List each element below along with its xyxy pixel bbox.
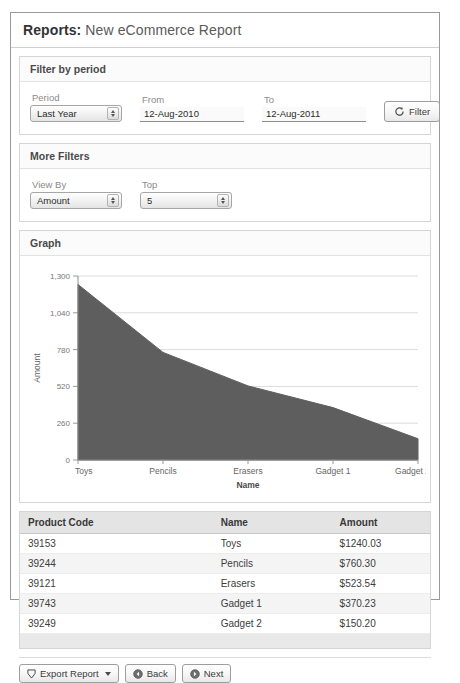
report-table-panel: Product Code Name Amount 39153Toys$1240.… [19,511,431,649]
report-table: Product Code Name Amount 39153Toys$1240.… [20,512,430,634]
x-tick-label: Pencils [149,466,176,476]
chevron-updown-icon [107,107,119,120]
y-tick-label: 780 [57,346,71,355]
chevron-updown-icon [217,194,229,207]
y-tick-label: 1,040 [50,309,71,318]
view-by-field: View By Amount [30,179,122,209]
to-label: To [262,94,366,105]
table-row[interactable]: 39153Toys$1240.03 [20,534,430,554]
more-filters-row: View By Amount Top 5 [30,179,420,209]
cell-product-code: 39121 [20,574,213,594]
cell-product-name: Toys [213,534,332,554]
filter-button[interactable]: Filter [384,101,440,122]
back-arrow-icon [133,669,143,679]
table-row[interactable]: 39244Pencils$760.30 [20,554,430,574]
top-select-value: 5 [141,195,152,206]
filter-button-label: Filter [409,106,430,117]
cell-product-name: Gadget 2 [213,614,332,634]
table-row[interactable]: 39121Erasers$523.54 [20,574,430,594]
back-button[interactable]: Back [125,664,176,683]
column-header-name[interactable]: Name [213,512,332,534]
refresh-icon [394,106,405,117]
area-chart: 02605207801,0401,300ToysPencilsErasersGa… [26,262,424,498]
table-body: 39153Toys$1240.0339244Pencils$760.303912… [20,534,430,634]
export-icon [27,669,36,679]
page-title: Reports: New eCommerce Report [11,13,439,48]
cell-product-amount: $523.54 [332,574,430,594]
filter-form-row: Period Last Year From To [30,92,420,122]
next-button[interactable]: Next [182,664,232,683]
cell-product-name: Pencils [213,554,332,574]
area-series [78,284,418,460]
from-label: From [140,94,244,105]
back-button-label: Back [147,668,168,679]
cell-product-code: 39153 [20,534,213,554]
y-tick-label: 260 [57,419,71,428]
cell-product-name: Gadget 1 [213,594,332,614]
cell-product-amount: $370.23 [332,594,430,614]
area-chart-svg: 02605207801,0401,300ToysPencilsErasersGa… [26,262,426,498]
table-filler-row [20,634,430,648]
cell-product-amount: $1240.03 [332,534,430,554]
table-header-row: Product Code Name Amount [20,512,430,534]
export-report-button[interactable]: Export Report [19,664,119,683]
x-tick-label: Gadget 2 [395,466,426,476]
filter-panel-header: Filter by period [20,57,430,82]
x-tick-label: Toys [75,466,92,476]
y-tick-label: 1,300 [50,272,71,281]
cell-product-code: 39249 [20,614,213,634]
more-filters-header: More Filters [20,144,430,169]
chevron-down-icon [105,672,111,676]
cell-product-amount: $150.20 [332,614,430,634]
period-field: Period Last Year [30,92,122,122]
next-arrow-icon [190,669,200,679]
cell-product-amount: $760.30 [332,554,430,574]
to-date-input[interactable] [262,107,366,122]
x-tick-label: Erasers [233,466,262,476]
column-header-amount[interactable]: Amount [332,512,430,534]
filter-by-period-panel: Filter by period Period Last Year From [19,56,431,135]
from-field: From [140,94,244,122]
period-label: Period [30,92,122,103]
chevron-updown-icon [107,194,119,207]
next-button-label: Next [204,668,224,679]
view-by-label: View By [30,179,122,190]
y-axis-label: Amount [32,353,42,383]
cell-product-code: 39743 [20,594,213,614]
top-field: Top 5 [140,179,232,209]
footer-toolbar: Export Report Back Next [19,657,431,683]
report-page-frame: Reports: New eCommerce Report Filter by … [10,12,440,600]
export-report-label: Export Report [40,668,99,679]
y-tick-label: 0 [66,456,71,465]
table-row[interactable]: 39249Gadget 2$150.20 [20,614,430,634]
view-by-select-value: Amount [31,195,70,206]
y-tick-label: 520 [57,382,71,391]
page-title-prefix: Reports: [23,22,81,38]
x-axis-label: Name [236,480,259,490]
period-select-value: Last Year [31,108,77,119]
table-row[interactable]: 39743Gadget 1$370.23 [20,594,430,614]
more-filters-panel: More Filters View By Amount Top 5 [19,143,431,222]
cell-product-name: Erasers [213,574,332,594]
graph-panel-header: Graph [20,231,430,256]
view-by-select[interactable]: Amount [30,192,122,209]
top-label: Top [140,179,232,190]
cell-product-code: 39244 [20,554,213,574]
x-tick-label: Gadget 1 [316,466,351,476]
to-field: To [262,94,366,122]
top-select[interactable]: 5 [140,192,232,209]
from-date-input[interactable] [140,107,244,122]
period-select[interactable]: Last Year [30,105,122,122]
page-title-text: New eCommerce Report [85,22,241,38]
column-header-product-code[interactable]: Product Code [20,512,213,534]
graph-panel: Graph 02605207801,0401,300ToysPencilsEra… [19,230,431,503]
